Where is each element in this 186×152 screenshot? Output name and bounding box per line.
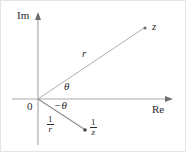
one-over-r-label: 1 r <box>47 115 54 135</box>
one-over-z-numerator: 1 <box>90 118 97 127</box>
one-over-z-denominator: z <box>90 127 97 137</box>
complex-plane-figure: Im Re 0 z r θ −θ 1 r 1 z <box>0 0 186 152</box>
origin-label: 0 <box>27 101 33 112</box>
angle-negative-theta-label: −θ <box>54 100 67 111</box>
point-one-over-z-marker <box>83 128 87 132</box>
real-axis-label: Re <box>152 104 164 115</box>
angle-theta-label: θ <box>64 81 69 92</box>
point-z-label: z <box>152 21 156 32</box>
one-over-r-numerator: 1 <box>47 115 54 124</box>
imaginary-axis-label: Im <box>17 10 29 21</box>
point-z-marker <box>143 26 146 29</box>
radius-r-label: r <box>82 48 86 59</box>
one-over-z-label: 1 z <box>90 118 97 138</box>
one-over-r-denominator: r <box>47 124 54 134</box>
